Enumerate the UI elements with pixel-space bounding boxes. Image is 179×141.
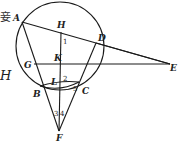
label-H: H (56, 20, 66, 30)
label-K: K (53, 53, 63, 63)
label-C: C (82, 86, 90, 96)
angle-4: 4 (60, 110, 65, 118)
label-E: E (169, 63, 177, 73)
angle-3: 3 (54, 110, 58, 118)
label-D: D (97, 33, 106, 43)
left-letter: H (0, 68, 12, 83)
angle-5: 5 (73, 85, 77, 93)
angle-2: 2 (63, 75, 67, 83)
label-F: F (55, 133, 63, 141)
angle-1: 1 (63, 38, 67, 46)
label-L: L (50, 77, 57, 87)
left-char: 妾 (0, 10, 11, 24)
label-G: G (24, 60, 32, 70)
label-B: B (32, 89, 41, 99)
segment-DE (96, 43, 170, 64)
label-A: A (12, 13, 20, 23)
geometry-diagram: 妾 H A H D E G K B L C F 1 2 3 4 5 (0, 0, 179, 141)
